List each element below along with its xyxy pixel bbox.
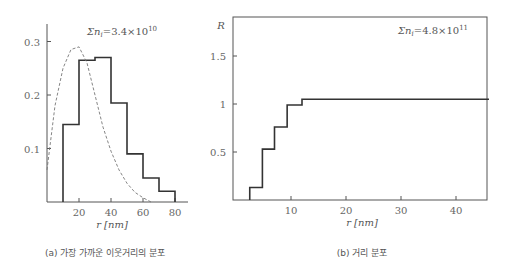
figure: 0.10.20.3 20406080 Σni=3.4×1010 r [nm] (…: [0, 0, 509, 273]
x-tick-label: 20: [73, 207, 86, 218]
chart-a: 0.10.20.3 20406080 Σni=3.4×1010 r [nm] (…: [24, 24, 188, 258]
x-tick-label: 80: [169, 207, 182, 218]
x-tick-label: 30: [395, 205, 408, 216]
y-tick-label: 0.1: [24, 144, 40, 155]
chart-b-x-ticks: 10203040: [285, 196, 463, 216]
y-tick-label: 0.3: [24, 37, 40, 48]
x-tick-label: 40: [105, 207, 118, 218]
chart-a-caption: (a) 가장 가까운 이웃거리의 분포: [45, 248, 165, 258]
x-tick-label: 10: [285, 205, 298, 216]
chart-a-x-label: r [nm]: [96, 219, 128, 230]
x-tick-label: 60: [137, 207, 150, 218]
chart-b-y-label: R: [216, 20, 225, 31]
chart-b-step-line: [250, 99, 489, 200]
x-tick-label: 40: [450, 205, 463, 216]
chart-b-caption: (b) 거리 분포: [337, 248, 387, 258]
y-tick-label: 0.5: [210, 147, 226, 158]
y-tick-label: 1.5: [210, 51, 226, 62]
chart-a-x-ticks: 20406080: [73, 198, 182, 218]
chart-b: 0.511.5 10203040 R Σni=4.8×1011 r [nm] (…: [210, 17, 489, 258]
y-tick-label: 0.2: [24, 90, 40, 101]
chart-a-histogram: [63, 58, 175, 202]
chart-b-annotation: Σni=4.8×1011: [397, 24, 468, 38]
chart-a-annotation: Σni=3.4×1010: [86, 25, 157, 39]
y-tick-label: 1: [220, 99, 226, 110]
chart-b-x-label: r [nm]: [346, 217, 378, 228]
chart-b-frame: [233, 17, 487, 200]
x-tick-label: 20: [340, 205, 353, 216]
